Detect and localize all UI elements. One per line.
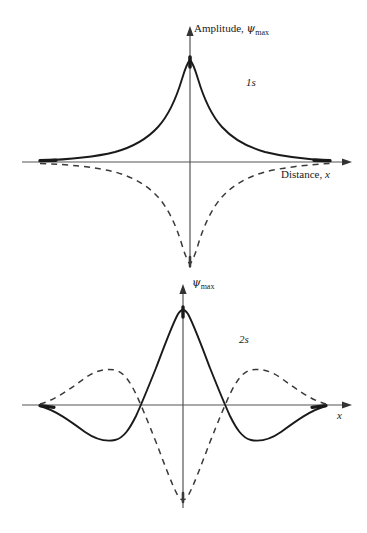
state-label-1s: 1s (246, 76, 256, 88)
psi-symbol-1s: ψ (247, 22, 256, 35)
curve-2s-solid-right-cap (312, 406, 326, 408)
psi-subscript-2s: max (201, 282, 215, 291)
panel-1s-axes (22, 26, 352, 268)
y-axis-arrowhead-1s (186, 26, 193, 36)
y-axis-arrowhead-2s (179, 284, 186, 294)
y-axis-label-1s-prefix: Amplitude, (194, 22, 247, 34)
y-axis-label-1s: Amplitude, ψmax (194, 22, 269, 37)
wavefunction-svg (0, 0, 367, 533)
y-axis-label-2s: ψmax (192, 276, 214, 291)
panel-2s-axes (22, 284, 352, 508)
curve-2s-solid-left-cap (40, 406, 54, 408)
psi-symbol-2s: ψ (192, 276, 201, 289)
x-axis-arrowhead-2s (342, 401, 352, 408)
x-axis-label-1s: Distance, x (281, 168, 330, 180)
x-symbol-1s: x (325, 168, 330, 180)
x-axis-label-1s-prefix: Distance, (281, 168, 325, 180)
state-label-2s: 2s (239, 333, 249, 345)
x-axis-arrowhead-1s (342, 158, 352, 165)
curve-1s-solid (40, 60, 330, 161)
psi-subscript-1s: max (255, 28, 269, 37)
x-axis-label-2s: x (337, 409, 342, 421)
wavefunction-figure: Amplitude, ψmax 1s Distance, x ψmax 2s x (0, 0, 367, 533)
